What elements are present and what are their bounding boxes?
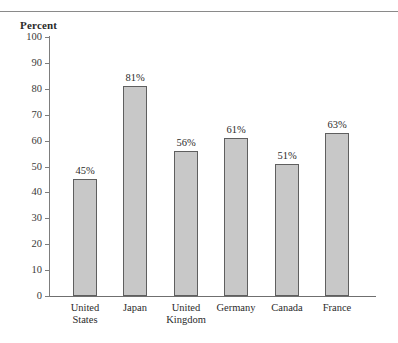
y-axis-tick-label: 60: [16, 136, 42, 146]
y-axis-tick: [45, 270, 50, 271]
category-label-line1: United: [172, 302, 201, 313]
bar[interactable]: [123, 86, 147, 296]
y-axis-tick-label: 20: [16, 239, 42, 249]
y-axis-tick: [45, 296, 50, 297]
bar-value-label: 51%: [265, 150, 309, 161]
y-axis-tick: [45, 167, 50, 168]
y-axis-tick-label-wrap: 10: [14, 265, 42, 275]
y-axis-title: Percent: [20, 19, 57, 31]
y-axis-tick-label-wrap: 80: [14, 84, 42, 94]
y-axis-tick-label: 0: [16, 291, 42, 301]
category-label-line1: Germany: [216, 302, 255, 313]
y-axis-tick: [45, 192, 50, 193]
bar-chart: Percent 1009080706050403020100 45%81%56%…: [0, 0, 398, 343]
x-axis-line: [49, 296, 376, 297]
category-label-line2: States: [55, 314, 115, 326]
y-axis-tick-label-wrap: 20: [14, 239, 42, 249]
y-axis-tick: [45, 89, 50, 90]
y-axis-tick-label-wrap: 90: [14, 58, 42, 68]
bar[interactable]: [174, 151, 198, 296]
bar[interactable]: [325, 133, 349, 296]
y-axis-tick-label: 30: [16, 213, 42, 223]
bar[interactable]: [275, 164, 299, 296]
y-axis-tick-label-wrap: 40: [14, 187, 42, 197]
y-axis-tick-label: 50: [16, 162, 42, 172]
category-label-line2: Kingdom: [156, 314, 216, 326]
y-axis-tick: [45, 115, 50, 116]
category-label-line1: United: [71, 302, 100, 313]
y-axis-tick-label-wrap: 50: [14, 162, 42, 172]
y-axis-tick-label: 70: [16, 110, 42, 120]
y-axis-tick-label: 10: [16, 265, 42, 275]
y-axis-tick-label-wrap: 70: [14, 110, 42, 120]
bar-value-label: 63%: [315, 119, 359, 130]
category-label-line1: Japan: [123, 302, 147, 313]
y-axis-tick-label-wrap: 60: [14, 136, 42, 146]
y-axis-tick: [45, 244, 50, 245]
y-axis-tick-label-wrap: 0: [14, 291, 42, 301]
bar-value-label: 81%: [113, 72, 157, 83]
y-axis-tick: [45, 141, 50, 142]
x-axis-category-label: France: [307, 302, 367, 314]
y-axis-tick-label: 90: [16, 58, 42, 68]
bar-value-label: 45%: [63, 165, 107, 176]
bar-value-label: 61%: [214, 124, 258, 135]
y-axis-tick-label: 80: [16, 84, 42, 94]
y-axis-tick-label-wrap: 30: [14, 213, 42, 223]
category-label-line1: France: [323, 302, 352, 313]
y-axis-tick-label: 40: [16, 187, 42, 197]
y-axis-tick: [45, 218, 50, 219]
y-axis-tick-label-wrap: 100: [14, 32, 42, 42]
bar[interactable]: [224, 138, 248, 296]
bar[interactable]: [73, 179, 97, 296]
bar-value-label: 56%: [164, 137, 208, 148]
y-axis-tick-label: 100: [16, 32, 42, 42]
y-axis-tick: [45, 63, 50, 64]
category-label-line1: Canada: [271, 302, 303, 313]
y-axis-tick: [45, 37, 50, 38]
